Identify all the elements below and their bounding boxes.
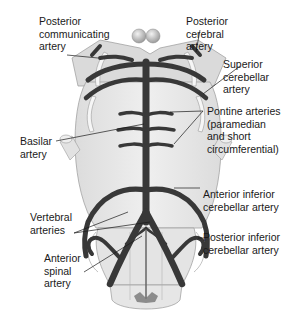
label-posterior-cerebral-artery: Posterior cerebral artery	[186, 15, 228, 53]
label-pontine-arteries: Pontine arteries (paramedian and short c…	[207, 105, 281, 155]
mammillary-bodies	[132, 29, 160, 43]
label-vertebral-arteries: Vertebral arteries	[30, 211, 72, 236]
label-anterior-inferior-cerebellar-artery: Anterior inferior cerebellar artery	[203, 188, 279, 213]
label-posterior-inferior-cerebellar-artery: Posterior inferior cerebellar artery	[203, 231, 280, 256]
brainstem-artery-diagram: Posterior communicating artery Posterior…	[0, 0, 292, 318]
label-posterior-communicating-artery: Posterior communicating artery	[39, 15, 110, 53]
label-superior-cerebellar-artery: Superior cerebellar artery	[223, 58, 269, 96]
label-anterior-spinal-artery: Anterior spinal artery	[44, 252, 81, 290]
label-basilar-artery: Basilar artery	[20, 135, 52, 160]
